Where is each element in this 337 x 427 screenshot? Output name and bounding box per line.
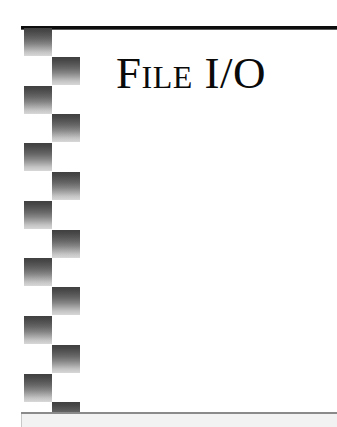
- checker-row: [24, 201, 81, 230]
- checker-square: [52, 172, 80, 200]
- checker-square: [24, 201, 52, 229]
- checker-row: [24, 57, 81, 86]
- checker-square: [24, 143, 52, 171]
- checker-square: [52, 287, 80, 315]
- page-title: File I/O: [116, 48, 321, 98]
- checker-row: [24, 28, 81, 57]
- checker-row: [24, 230, 81, 259]
- checker-square: [52, 57, 80, 85]
- checker-square: [52, 114, 80, 142]
- checker-row: [24, 86, 81, 115]
- checker-row: [24, 114, 81, 143]
- checker-square: [52, 345, 80, 373]
- checker-square: [24, 316, 52, 344]
- chapter-opener-page: File I/O: [0, 0, 337, 427]
- checker-square: [24, 28, 52, 56]
- checker-row: [24, 345, 81, 374]
- checker-row: [24, 143, 81, 172]
- checker-row: [24, 172, 81, 201]
- checkerboard-ornament: [24, 28, 81, 402]
- checker-square: [24, 374, 52, 402]
- checker-square: [24, 86, 52, 114]
- checker-row: [24, 316, 81, 345]
- bottom-rule-band: [21, 414, 337, 427]
- checker-square: [24, 258, 52, 286]
- checker-row: [24, 287, 81, 316]
- checker-row: [24, 258, 81, 287]
- checker-row: [24, 374, 81, 403]
- checker-square: [52, 230, 80, 258]
